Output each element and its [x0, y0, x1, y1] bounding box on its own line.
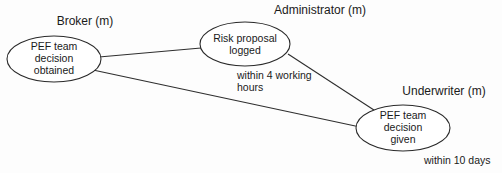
- annotation-line-1: within 4 working: [236, 69, 312, 81]
- node-label-line-2: decision: [384, 121, 423, 133]
- node-label-line-1: PEF team: [31, 40, 78, 52]
- node-pef-team-decision-given[interactable]: PEF team decision given: [356, 105, 450, 151]
- node-label-line-2: decision: [35, 52, 74, 64]
- annotation-within-4-working-hours: within 4 working hours: [236, 69, 312, 93]
- annotation-within-10-days: within 10 days: [423, 154, 491, 166]
- edge-obtained-to-logged[interactable]: [99, 48, 201, 57]
- swimlane-label-administrator: Administrator (m): [274, 3, 366, 17]
- annotation-line-1: within 10 days: [423, 154, 491, 166]
- edge-logged-to-given[interactable]: [288, 54, 377, 112]
- node-label-line-1: PEF team: [380, 109, 427, 121]
- node-pef-team-decision-obtained[interactable]: PEF team decision obtained: [7, 36, 101, 82]
- swimlane-label-broker: Broker (m): [57, 14, 114, 28]
- node-label-line-3: obtained: [34, 64, 74, 76]
- swimlane-label-underwriter: Underwriter (m): [402, 84, 485, 98]
- diagram-svg: Broker (m) Administrator (m) Underwriter…: [0, 0, 502, 173]
- node-label-line-1: Risk proposal: [213, 32, 277, 44]
- node-label-line-3: given: [390, 133, 415, 145]
- node-label-line-2: logged: [229, 44, 261, 56]
- annotation-line-2: hours: [237, 81, 263, 93]
- edge-obtained-to-given[interactable]: [93, 70, 360, 127]
- node-risk-proposal-logged[interactable]: Risk proposal logged: [200, 22, 290, 66]
- diagram-canvas: Broker (m) Administrator (m) Underwriter…: [0, 0, 502, 173]
